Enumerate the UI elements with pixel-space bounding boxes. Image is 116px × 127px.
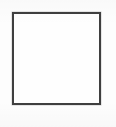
canvas bbox=[0, 0, 116, 127]
square-outline bbox=[12, 12, 101, 105]
